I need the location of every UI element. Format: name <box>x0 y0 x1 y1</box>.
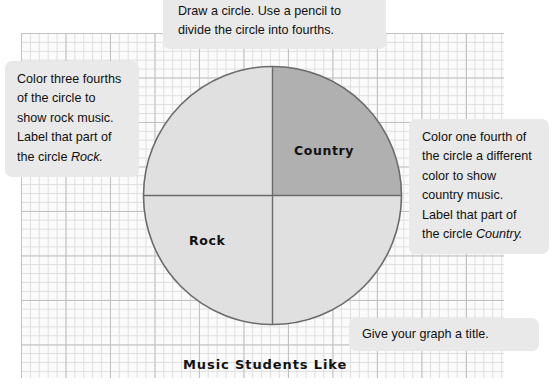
callout-line: Label that part of <box>422 206 549 225</box>
graph-title: Music Students Like <box>183 357 347 372</box>
callout-line: country music. <box>422 186 549 205</box>
callout-line: Color one fourth of <box>422 128 549 147</box>
callout-line: color to show <box>422 167 549 186</box>
worksheet-screen: Country Rock Music Students Like Draw a … <box>0 0 552 385</box>
callout-italic-term: Country. <box>476 227 523 241</box>
pie-chart: Country Rock <box>142 65 403 326</box>
callout-color-rock: Color three fourths of the circle to sho… <box>5 61 139 177</box>
pie-label-country: Country <box>294 143 354 158</box>
callout-line: of the circle to <box>17 89 139 108</box>
callout-line: Color three fourths <box>17 70 139 89</box>
callout-line-text: the circle <box>17 150 71 164</box>
callout-line-text: the circle <box>422 227 476 241</box>
callout-line: Label that part of <box>17 128 139 147</box>
callout-line: the circle a different <box>422 147 549 166</box>
callout-line: divide the circle into fourths. <box>178 21 386 40</box>
callout-line-italic-tail: the circle Country. <box>422 225 549 244</box>
callout-color-country: Color one fourth of the circle a differe… <box>409 119 549 254</box>
pie-label-rock: Rock <box>189 233 225 248</box>
callout-italic-term: Rock. <box>71 150 103 164</box>
callout-give-title: Give your graph a title. <box>349 318 539 351</box>
callout-line: Draw a circle. Use a pencil to <box>178 2 386 21</box>
callout-draw-circle: Draw a circle. Use a pencil to divide th… <box>163 0 386 49</box>
callout-line: Give your graph a title. <box>362 325 539 344</box>
callout-line: show rock music. <box>17 109 139 128</box>
pie-slice-country <box>273 67 402 196</box>
callout-line-italic-tail: the circle Rock. <box>17 148 139 167</box>
